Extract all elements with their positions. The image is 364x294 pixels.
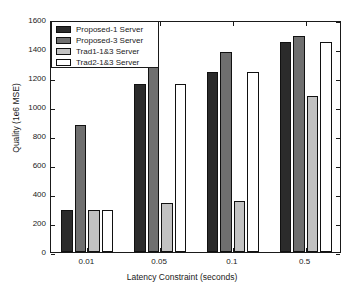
bar-chart-figure: 020040060080010001200140016000.010.050.1… (0, 0, 364, 294)
y-axis-tick-label: 1400 (28, 46, 46, 54)
x-axis-tick (160, 22, 161, 26)
y-axis-tick (336, 225, 340, 226)
y-axis-tick (51, 138, 55, 139)
y-axis-tick (336, 167, 340, 168)
legend-label: Trad2-1&3 Server (76, 58, 139, 67)
y-axis-tick-label: 800 (33, 133, 46, 141)
y-axis-tick-label: 200 (33, 220, 46, 228)
legend-swatch (56, 26, 71, 33)
y-axis-tick (51, 109, 55, 110)
bar (247, 72, 259, 252)
bar (220, 52, 232, 252)
legend-label: Proposed-3 Server (76, 36, 143, 45)
bar (207, 72, 219, 252)
x-axis-tick-label: 0.05 (129, 257, 189, 266)
bar (88, 210, 100, 252)
bar (280, 42, 292, 252)
bar (175, 84, 187, 252)
y-axis-tick (336, 51, 340, 52)
legend-item: Proposed-3 Server (52, 35, 158, 46)
y-axis-tick-label: 400 (33, 191, 46, 199)
y-axis-tick (336, 80, 340, 81)
bar (61, 210, 73, 252)
y-axis-tick (51, 167, 55, 168)
x-axis-tick (306, 22, 307, 26)
y-axis-tick-label: 1600 (28, 17, 46, 25)
y-axis-tick (336, 22, 340, 23)
bar (148, 66, 160, 252)
legend-label: Proposed-1 Server (76, 25, 143, 34)
y-axis-label: Quality (1e6 MSE) (11, 58, 21, 178)
y-axis-tick (51, 254, 55, 255)
bar (307, 96, 319, 252)
legend-swatch (56, 48, 71, 55)
legend-label: Trad1-1&3 Server (76, 47, 139, 56)
bar (102, 210, 114, 252)
bar (320, 42, 332, 252)
legend-swatch (56, 37, 71, 44)
y-axis-tick (336, 254, 340, 255)
y-axis-tick-label: 0 (42, 249, 46, 257)
y-axis-tick-label: 1000 (28, 104, 46, 112)
x-axis-tick-label: 0.01 (56, 257, 116, 266)
y-axis-tick (51, 80, 55, 81)
y-axis-tick-label: 1200 (28, 75, 46, 83)
x-axis-tick-label: 0.1 (202, 257, 262, 266)
x-axis-label: Latency Constraint (seconds) (0, 272, 364, 282)
bar (75, 125, 87, 252)
y-axis-tick (336, 109, 340, 110)
bar (161, 203, 173, 252)
x-axis-tick (233, 22, 234, 26)
bar (234, 201, 246, 252)
bar (293, 36, 305, 252)
legend-swatch (56, 59, 71, 66)
y-axis-tick (336, 196, 340, 197)
legend-item: Trad1-1&3 Server (52, 46, 158, 57)
legend-item: Proposed-1 Server (52, 24, 158, 35)
y-axis-tick (51, 196, 55, 197)
chart-legend: Proposed-1 ServerProposed-3 ServerTrad1-… (51, 21, 159, 68)
y-axis-tick-label: 600 (33, 162, 46, 170)
bar (134, 84, 146, 252)
x-axis-tick-label: 0.5 (275, 257, 335, 266)
legend-item: Trad2-1&3 Server (52, 57, 158, 68)
y-axis-tick (51, 225, 55, 226)
y-axis-tick (336, 138, 340, 139)
